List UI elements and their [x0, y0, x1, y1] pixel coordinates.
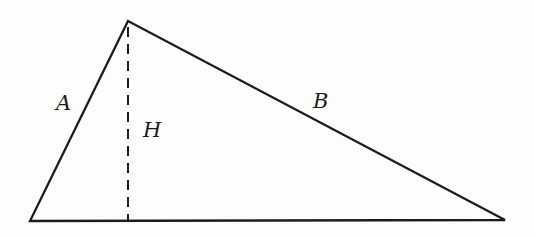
label-side-b: B [312, 89, 328, 113]
label-altitude-h: H [142, 118, 162, 142]
triangle-outline [30, 21, 505, 221]
triangle-figure: A B H [0, 0, 534, 237]
triangle-canvas: A B H [0, 0, 534, 237]
label-side-a: A [54, 91, 71, 115]
